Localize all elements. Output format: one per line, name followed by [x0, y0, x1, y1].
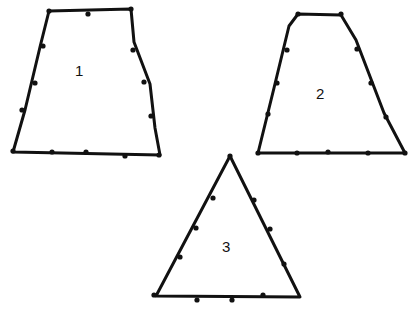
vertex-dot: [354, 46, 359, 51]
vertex-dot: [338, 11, 343, 16]
vertex-dot: [402, 150, 407, 155]
vertex-dot: [383, 114, 388, 119]
shape-triangle-3: [151, 153, 300, 302]
vertex-dot: [325, 149, 330, 154]
shape-label-3: 3: [222, 238, 230, 255]
vertex-dot: [32, 80, 37, 85]
vertex-dot: [368, 80, 373, 85]
shape-outline: [156, 156, 300, 297]
vertex-dot: [229, 297, 234, 302]
vertex-dot: [148, 113, 153, 118]
vertex-dot: [49, 149, 54, 154]
shape-label-1: 1: [75, 62, 83, 79]
vertex-dot: [194, 297, 199, 302]
shape-outline: [258, 14, 405, 153]
vertex-dot: [193, 225, 198, 230]
vertex-dot: [10, 148, 15, 153]
vertex-dot: [122, 153, 127, 158]
vertex-dot: [177, 254, 182, 259]
vertex-dot: [365, 150, 370, 155]
vertex-dot: [83, 149, 88, 154]
vertex-dot: [284, 47, 289, 52]
vertex-dot: [130, 47, 135, 52]
vertex-dot: [295, 11, 300, 16]
vertex-dot: [156, 152, 161, 157]
vertex-dot: [85, 11, 90, 16]
vertex-dot: [274, 80, 279, 85]
vertex-dot: [19, 107, 24, 112]
vertex-dot: [281, 261, 286, 266]
vertex-dot: [227, 153, 232, 158]
vertex-dot: [210, 195, 215, 200]
vertex-dot: [46, 8, 51, 13]
shape-trapezoid-2: [255, 11, 407, 155]
vertex-dot: [294, 150, 299, 155]
vertex-dot: [267, 226, 272, 231]
vertex-dot: [255, 150, 260, 155]
shape-trapezoid-1: [10, 6, 161, 158]
shape-label-2: 2: [316, 85, 324, 102]
vertex-dot: [265, 111, 270, 116]
vertex-dot: [251, 197, 256, 202]
vertex-dot: [151, 292, 156, 297]
vertex-dot: [260, 292, 265, 297]
shapes-diagram: [0, 0, 414, 310]
vertex-dot: [141, 79, 146, 84]
vertex-dot: [40, 43, 45, 48]
vertex-dot: [128, 6, 133, 11]
